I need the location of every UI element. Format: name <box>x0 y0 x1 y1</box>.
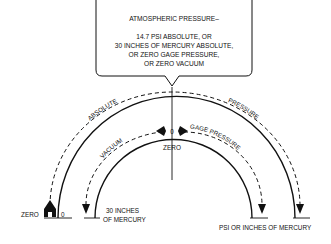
center-zero-value: 0 <box>170 128 174 135</box>
center-left-arrow-icon <box>156 126 166 136</box>
callout-line: OR ZERO GAGE PRESSURE, <box>96 50 252 59</box>
gage-arrow-icon <box>258 204 266 214</box>
absolute-label: ABSOLUTE <box>86 97 118 121</box>
absolute-arrow-icon <box>296 204 304 214</box>
atmospheric-pressure-callout: ATMOSPHERIC PRESSURE– 14.7 PSI ABSOLUTE,… <box>96 14 252 68</box>
callout-line: 14.7 PSI ABSOLUTE, OR <box>96 32 252 41</box>
pressure-label: PRESSURE <box>227 96 260 120</box>
vacuum-end-label-line2: OF MERCURY <box>103 216 147 223</box>
callout-title: ATMOSPHERIC PRESSURE– <box>96 14 252 23</box>
callout-line: 30 INCHES OF MERCURY ABSOLUTE, <box>96 41 252 50</box>
callout-line: OR ZERO VACUUM <box>96 59 252 68</box>
gage-pressure-label: GAGE PRESSURE <box>190 123 242 152</box>
absolute-zero-marker-icon <box>44 200 56 217</box>
absolute-zero-label: ZERO <box>21 211 39 218</box>
center-zero-label: ZERO <box>163 144 181 151</box>
vacuum-label: VACUUM <box>98 137 123 160</box>
vacuum-end-label-line1: 30 INCHES <box>106 207 139 214</box>
pressure-units-label: PSI OR INCHES OF MERCURY <box>219 224 312 231</box>
absolute-zero-value: 0 <box>61 211 65 218</box>
center-right-arrow-icon <box>178 126 188 136</box>
vacuum-arrow-icon <box>82 204 90 214</box>
